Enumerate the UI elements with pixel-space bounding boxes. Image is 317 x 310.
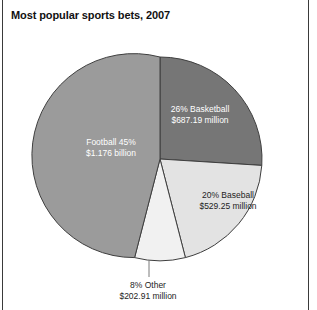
pie-slice-basketball[interactable] [160, 57, 262, 165]
pie-chart: 26% Basketball $687.19 million 20% Baseb… [0, 0, 317, 310]
pie-chart-svg [0, 0, 317, 310]
chart-figure: Most popular sports bets, 2007 26% Baske… [0, 0, 317, 310]
pie-slice-football[interactable] [32, 54, 160, 258]
